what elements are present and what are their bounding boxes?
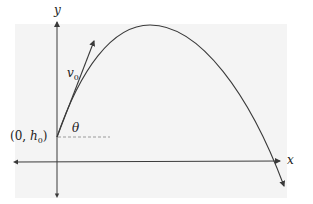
x-axis: [16, 161, 280, 162]
y-axis-bottom-arrow-icon: [55, 194, 59, 199]
velocity-label: v0: [67, 67, 79, 82]
angle-label: θ: [72, 122, 79, 134]
diagram-canvas: [0, 0, 313, 204]
y-axis-label: y: [54, 4, 61, 16]
x-axis-label: x: [287, 154, 294, 166]
projectile-diagram: y x v0 θ (0, h0): [0, 0, 313, 204]
launch-point-label: (0, h0): [10, 130, 47, 145]
x-axis-left-arrow-icon: [13, 160, 18, 165]
